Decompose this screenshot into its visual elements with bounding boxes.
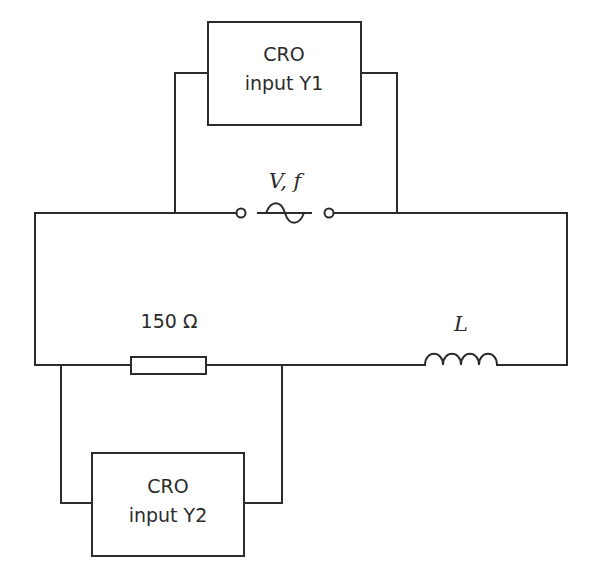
terminal-right-icon <box>325 209 334 218</box>
terminal-left-icon <box>237 209 246 218</box>
cro-y2-lead-right <box>244 365 282 503</box>
cro-y1-lead-right <box>361 73 397 213</box>
main-loop <box>35 213 567 365</box>
ac-source: V, f <box>237 169 334 223</box>
source-label: V, f <box>269 169 305 193</box>
inductor-coil-icon <box>425 354 497 365</box>
cro-y1-lead-left <box>175 73 208 213</box>
inductor-label: L <box>453 312 468 336</box>
cro-y1-title: CRO <box>263 43 304 65</box>
resistor: 150 Ω <box>131 310 206 374</box>
cro-y2-input: input Y2 <box>129 504 208 526</box>
resistor-label: 150 Ω <box>141 310 198 332</box>
circuit-diagram: V, f CRO input Y1 150 Ω L CRO input Y2 <box>0 0 594 585</box>
cro-y2: CRO input Y2 <box>61 365 282 556</box>
inductor: L <box>425 312 497 365</box>
resistor-icon <box>131 357 206 374</box>
cro-y1-input: input Y1 <box>245 72 324 94</box>
cro-y2-title: CRO <box>147 475 188 497</box>
cro-y2-lead-left <box>61 365 92 503</box>
